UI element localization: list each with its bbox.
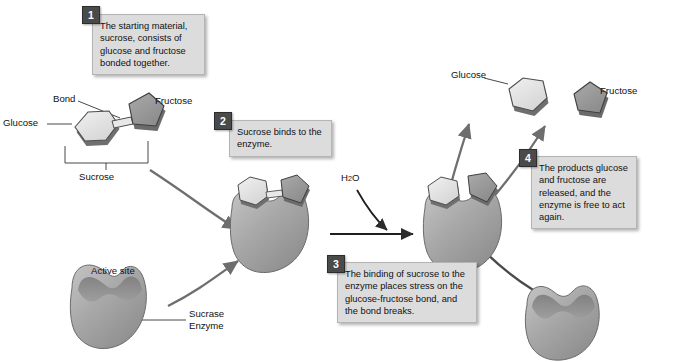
enzyme-free	[70, 265, 146, 348]
callout-badge-3: 3	[327, 255, 345, 273]
label-sucrase-enzyme: Sucrase Enzyme	[189, 308, 224, 331]
water-o: O	[352, 172, 359, 183]
glycosidic-bond	[112, 117, 133, 128]
callout-box-2: Sucrose binds to the enzyme.	[229, 120, 332, 157]
water-h: H	[341, 172, 348, 183]
complex-enzyme-sucrose	[230, 175, 310, 273]
callout-box-4: The products glucose and fructose are re…	[531, 156, 637, 229]
label-glucose-product: Glucose	[451, 69, 486, 81]
molecule-glucose-product	[509, 78, 549, 116]
callout-badge-1: 1	[82, 6, 100, 24]
label-sucrose-bracket: Sucrose	[79, 171, 114, 183]
label-active-site: Active site	[91, 265, 135, 277]
complex-enzyme-stressed	[423, 173, 501, 273]
callout-box-3: The binding of sucrose to the enzyme pla…	[337, 262, 477, 323]
enzyme-regenerated	[525, 286, 599, 360]
diagram-canvas: 1 The starting material, sucrose, consis…	[0, 0, 677, 362]
callout-badge-2: 2	[214, 112, 232, 130]
label-bond: Bond	[53, 93, 75, 105]
label-glucose-substrate: Glucose	[3, 117, 38, 129]
callout-box-1: The starting material, sucrose, consists…	[92, 14, 205, 75]
label-fructose-product: Fructose	[600, 85, 637, 97]
callout-badge-4: 4	[519, 149, 537, 167]
molecule-sucrose-free	[75, 93, 166, 146]
label-fructose-substrate: Fructose	[155, 95, 192, 107]
label-water: H2O	[341, 172, 359, 184]
